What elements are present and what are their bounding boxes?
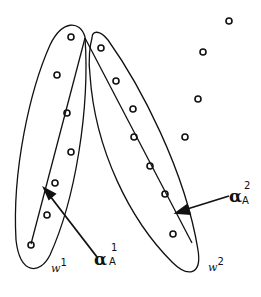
data-point-cluster-w2	[170, 231, 176, 237]
w2-letter: w	[208, 261, 217, 274]
alpha1-sub: A	[109, 257, 116, 267]
data-point-unclustered	[195, 96, 201, 102]
data-point-cluster-w2	[130, 106, 136, 112]
alpha1-sup: 1	[111, 243, 117, 253]
arrow-alpha2	[184, 196, 229, 210]
w1-sup: 1	[60, 257, 66, 268]
arrow-alpha1	[50, 196, 97, 257]
label-alpha1: α 1 A	[94, 243, 124, 273]
data-point-cluster-w1	[52, 180, 58, 186]
alpha1-symbol: α	[94, 251, 107, 268]
cluster-w1-axis	[31, 38, 85, 244]
alpha2-sub: A	[242, 196, 249, 206]
data-point-unclustered	[200, 49, 206, 55]
cluster-w1-boundary	[15, 25, 86, 268]
arrowhead-alpha1	[44, 188, 55, 199]
label-w1: w1	[51, 258, 67, 275]
alpha2-symbol: α	[229, 188, 242, 205]
data-point-unclustered	[226, 18, 232, 24]
data-point-cluster-w2	[113, 78, 119, 84]
data-point-unclustered	[182, 134, 188, 140]
data-point-cluster-w1	[68, 34, 74, 40]
label-alpha2: α 2 A	[229, 181, 259, 211]
w2-sup: 2	[217, 256, 223, 267]
w1-letter: w	[51, 262, 60, 275]
alpha2-sup: 2	[244, 181, 250, 191]
data-point-cluster-w1	[54, 72, 60, 78]
label-w2: w2	[208, 257, 224, 274]
arrowhead-alpha2	[176, 205, 190, 214]
diagram-canvas	[0, 0, 261, 297]
data-point-cluster-w2	[98, 45, 104, 51]
data-point-cluster-w1	[68, 149, 74, 155]
data-points	[28, 18, 232, 248]
data-point-cluster-w1	[44, 212, 50, 218]
